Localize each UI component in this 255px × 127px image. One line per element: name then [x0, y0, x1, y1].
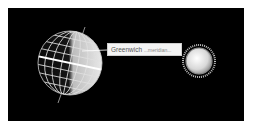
callout-secondary: ...meridian... [144, 47, 172, 53]
sun [183, 45, 215, 77]
earth-globe [24, 23, 116, 102]
greenwich-callout: Greenwich ...meridian... [107, 43, 182, 56]
diagram-canvas [0, 0, 255, 127]
callout-primary: Greenwich [111, 46, 142, 53]
